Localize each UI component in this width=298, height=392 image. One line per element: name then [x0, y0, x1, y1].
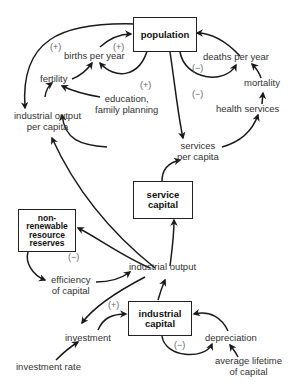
stock-industrial-capital: industrial capital — [128, 301, 192, 336]
nonrenewable-label: non- renewable resource reserves — [26, 214, 68, 248]
var-average-lifetime-of-capital: average lifetime of capital — [215, 356, 282, 377]
var-efficiency-of-capital: efficiency of capital — [51, 275, 90, 296]
var-industrial-output-per-capita: industrial output per capita — [14, 111, 81, 132]
polarity-births-left: (+) — [50, 42, 61, 52]
polarity-education: (+) — [140, 80, 151, 90]
polarity-resource: (−) — [68, 252, 79, 262]
var-investment-rate: investment rate — [16, 362, 81, 373]
stock-nonrenewable-resources: non- renewable resource reserves — [18, 209, 76, 252]
population-label: population — [141, 30, 190, 40]
var-fertility: fertility — [40, 74, 67, 85]
service-capital-label: service capital — [147, 190, 180, 210]
var-health-services: health services — [216, 104, 279, 115]
polarity-births-right: (+) — [113, 42, 124, 52]
var-services-per-capita: services per capita — [177, 141, 219, 162]
stock-population: population — [133, 17, 197, 52]
var-births-per-year: births per year — [64, 51, 125, 62]
polarity-deaths: (−) — [192, 63, 203, 73]
var-education-family-planning: education, family planning — [95, 94, 158, 115]
var-mortality: mortality — [244, 78, 280, 89]
var-depreciation: depreciation — [205, 333, 257, 344]
var-industrial-output: industrial output — [129, 262, 196, 273]
polarity-health: (−) — [192, 89, 203, 99]
industrial-capital-label: industrial capital — [139, 309, 182, 329]
stock-service-capital: service capital — [133, 181, 193, 219]
polarity-investment: (+) — [108, 300, 119, 310]
var-deaths-per-year: deaths per year — [203, 52, 269, 63]
polarity-depreciation: (−) — [174, 340, 185, 350]
var-investment: investment — [65, 333, 111, 344]
